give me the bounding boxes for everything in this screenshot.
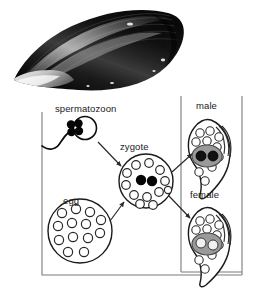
label-egg: egg <box>63 196 79 206</box>
mussel-shell-image <box>0 0 253 96</box>
zygote-node <box>119 154 173 209</box>
label-male: male <box>196 101 217 111</box>
label-spermatozoon: spermatozoon <box>55 104 116 114</box>
figure-root: spermatozoon zygote egg male female <box>0 0 253 290</box>
label-zygote: zygote <box>120 142 149 152</box>
label-female: female <box>190 190 219 200</box>
mussel-photograph <box>0 0 253 96</box>
egg-node <box>48 199 112 263</box>
